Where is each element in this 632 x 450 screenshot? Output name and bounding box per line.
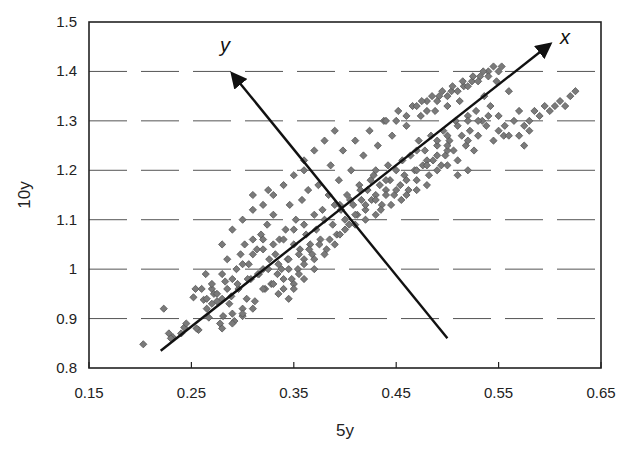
data-point-diamond: [556, 97, 563, 104]
data-point-diamond: [485, 112, 492, 119]
data-point-diamond: [501, 122, 508, 129]
data-point-diamond: [384, 162, 391, 169]
data-point-diamond: [285, 266, 292, 273]
data-point-diamond: [331, 127, 338, 134]
y-tick-label: 1.1: [56, 211, 77, 228]
data-point-diamond: [280, 285, 287, 292]
data-points: [140, 63, 579, 348]
data-point-diamond: [362, 216, 369, 223]
data-point-diamond: [251, 298, 258, 305]
data-point-diamond: [372, 211, 379, 218]
data-point-diamond: [551, 102, 558, 109]
data-point-diamond: [331, 241, 338, 248]
data-point-diamond: [282, 226, 289, 233]
data-point-diamond: [270, 211, 277, 218]
data-point-diamond: [202, 270, 209, 277]
data-point-diamond: [515, 107, 522, 114]
data-point-diamond: [264, 221, 271, 228]
data-point-diamond: [285, 295, 292, 302]
y-tick-label: 1: [69, 260, 77, 277]
data-point-diamond: [444, 102, 451, 109]
data-point-diamond: [224, 256, 231, 263]
x-axis-title: 5y: [336, 421, 354, 440]
data-point-diamond: [417, 112, 424, 119]
data-point-diamond: [222, 278, 229, 285]
data-point-diamond: [239, 261, 246, 268]
data-point-diamond: [572, 88, 579, 95]
data-point-diamond: [470, 147, 477, 154]
data-point-diamond: [403, 122, 410, 129]
data-point-diamond: [327, 162, 334, 169]
data-point-diamond: [456, 97, 463, 104]
x-tick-label: 0.25: [177, 384, 206, 401]
data-point-diamond: [249, 191, 256, 198]
data-point-diamond: [219, 241, 226, 248]
data-point-diamond: [239, 216, 246, 223]
data-point-diamond: [348, 167, 355, 174]
data-point-diamond: [229, 310, 236, 317]
data-point-diamond: [275, 290, 282, 297]
data-point-diamond: [421, 147, 428, 154]
data-point-diamond: [339, 147, 346, 154]
data-point-diamond: [505, 88, 512, 95]
data-point-diamond: [434, 137, 441, 144]
data-point-diamond: [382, 191, 389, 198]
data-point-diamond: [428, 93, 435, 100]
data-point-diamond: [233, 266, 240, 273]
data-point-diamond: [300, 167, 307, 174]
y-axis-title: 10y: [15, 181, 34, 209]
data-point-diamond: [475, 132, 482, 139]
data-point-diamond: [249, 206, 256, 213]
data-point-diamond: [290, 172, 297, 179]
y-axis-ticks: 0.80.911.11.21.31.41.5: [56, 13, 77, 376]
data-point-diamond: [366, 127, 373, 134]
x-tick-label: 0.55: [484, 384, 513, 401]
data-point-diamond: [190, 294, 197, 301]
data-point-diamond: [423, 182, 430, 189]
y-tick-label: 0.8: [56, 359, 77, 376]
data-point-diamond: [374, 142, 381, 149]
data-point-diamond: [444, 162, 451, 169]
data-point-diamond: [505, 132, 512, 139]
data-point-diamond: [398, 196, 405, 203]
arrow-x-axis: [161, 44, 550, 350]
data-point-diamond: [326, 236, 333, 243]
data-point-diamond: [526, 117, 533, 124]
data-point-diamond: [458, 132, 465, 139]
data-point-diamond: [160, 305, 167, 312]
data-point-diamond: [360, 152, 367, 159]
data-point-diamond: [495, 127, 502, 134]
data-point-diamond: [300, 261, 307, 268]
data-point-diamond: [490, 137, 497, 144]
data-point-diamond: [531, 107, 538, 114]
data-point-diamond: [270, 241, 277, 248]
data-point-diamond: [321, 137, 328, 144]
data-point-diamond: [237, 251, 244, 258]
data-point-diamond: [198, 285, 205, 292]
arrow-label-x: x: [559, 26, 571, 48]
data-point-diamond: [521, 142, 528, 149]
data-point-diamond: [329, 221, 336, 228]
data-point-diamond: [387, 201, 394, 208]
data-point-diamond: [464, 167, 471, 174]
data-point-diamond: [536, 112, 543, 119]
x-tick-label: 0.45: [382, 384, 411, 401]
data-point-diamond: [515, 132, 522, 139]
y-tick-label: 1.5: [56, 13, 77, 30]
data-point-diamond: [259, 246, 266, 253]
data-point-diamond: [413, 177, 420, 184]
data-point-diamond: [229, 275, 236, 282]
data-point-diamond: [466, 127, 473, 134]
data-point-diamond: [464, 117, 471, 124]
data-point-diamond: [454, 88, 461, 95]
x-tick-label: 0.15: [74, 384, 103, 401]
x-tick-label: 0.65: [586, 384, 615, 401]
data-point-diamond: [335, 177, 342, 184]
data-point-diamond: [432, 107, 439, 114]
data-point-diamond: [403, 112, 410, 119]
data-point-diamond: [413, 186, 420, 193]
data-point-diamond: [454, 157, 461, 164]
data-point-diamond: [292, 216, 299, 223]
data-point-diamond: [389, 132, 396, 139]
data-point-diamond: [229, 226, 236, 233]
